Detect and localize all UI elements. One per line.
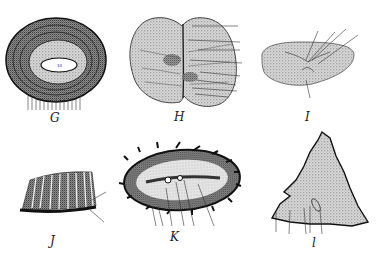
figure-plate: 10 G H [0,0,381,256]
figure-j: J [20,172,106,248]
figure-label-k: K [169,230,180,244]
figure-h: H [130,18,242,124]
k-nucleus [178,176,183,181]
h-dark-area [163,54,181,66]
figure-k: K [119,142,242,244]
figure-label-g: G [50,111,60,125]
figure-l: l [272,132,368,250]
figure-label-l: l [312,236,316,250]
figure-i: I [262,29,358,124]
figure-label-j: J [47,234,56,248]
figure-label-h: H [173,110,185,124]
h-dark-area [182,72,198,82]
figure-g: 10 G [6,18,106,125]
g-center-label: 10 [57,63,63,68]
i-outline [262,42,354,85]
k-nucleus [165,177,171,183]
figure-label-i: I [304,110,310,124]
